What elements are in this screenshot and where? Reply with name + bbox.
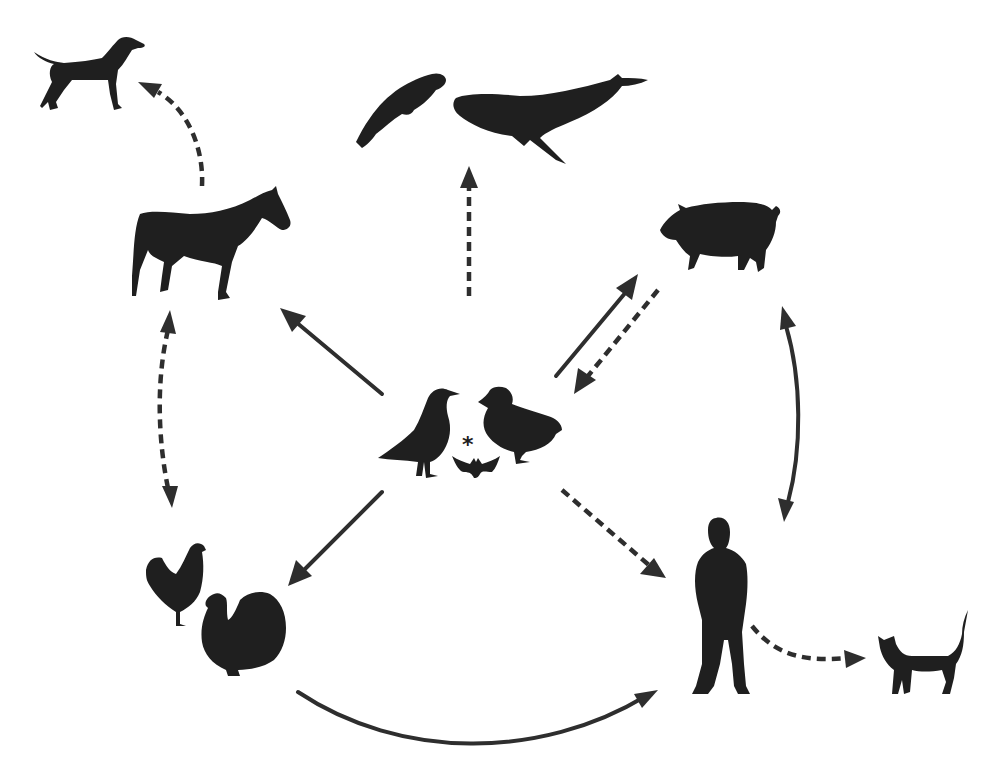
arrow-poultry-to-human bbox=[298, 690, 658, 744]
chicken-icon bbox=[146, 543, 206, 626]
asterisk-annotation: * bbox=[462, 432, 474, 457]
arrow-center-to-human bbox=[562, 490, 666, 578]
whale-icon bbox=[453, 74, 648, 164]
arrow-pig-human-bidirectional bbox=[778, 306, 798, 522]
pig-icon bbox=[660, 202, 780, 272]
seal-icon bbox=[356, 73, 446, 148]
human-icon bbox=[692, 518, 750, 694]
transmission-diagram: * bbox=[0, 0, 1008, 783]
turkey-icon bbox=[201, 592, 286, 676]
arrow-center-to-poultry bbox=[288, 492, 382, 586]
duck-icon bbox=[478, 387, 562, 464]
bat-icon bbox=[452, 456, 500, 478]
gull-icon bbox=[378, 388, 460, 478]
horse-icon bbox=[132, 186, 291, 300]
arrow-center-to-marine bbox=[460, 166, 478, 296]
dog-icon bbox=[34, 37, 145, 110]
arrow-horse-to-dog bbox=[138, 82, 202, 186]
arrow-horse-poultry-bidirectional bbox=[160, 310, 178, 508]
cat-icon bbox=[878, 610, 968, 694]
arrow-center-to-horse bbox=[280, 308, 382, 394]
arrow-human-to-cat bbox=[752, 626, 866, 668]
arrow-center-to-pig bbox=[556, 274, 638, 376]
